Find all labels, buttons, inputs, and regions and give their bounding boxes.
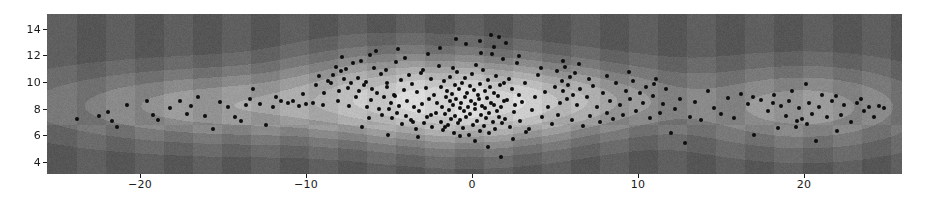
figure-container: 468101214 −20−1001020 <box>0 0 931 206</box>
x-tick-mark <box>472 174 473 178</box>
x-axis-tick-marks <box>0 0 931 206</box>
x-tick-mark <box>306 174 307 178</box>
x-tick-mark <box>804 174 805 178</box>
x-tick-mark <box>638 174 639 178</box>
x-tick-mark <box>140 174 141 178</box>
